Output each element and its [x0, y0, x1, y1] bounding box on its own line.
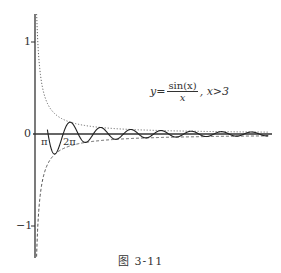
lower-envelope-curve: [37, 136, 269, 257]
y-tick-minus-1: −1: [16, 219, 32, 232]
x-tick-2pi: 2π: [63, 136, 76, 147]
formula-numerator: sin(x): [167, 80, 197, 92]
formula-condition: , x>3: [200, 85, 229, 98]
function-annotation: y= sin(x) x , x>3: [150, 80, 229, 103]
formula-denominator: x: [180, 92, 186, 103]
upper-envelope-curve: [37, 14, 269, 132]
y-tick-0: 0: [24, 127, 31, 140]
x-tick-pi: π: [41, 136, 48, 147]
y-tick-1: 1: [24, 35, 31, 48]
sinc-curve: [47, 122, 268, 154]
figure-caption: 图 3-11: [118, 252, 163, 268]
formula-lhs: y=: [150, 85, 165, 98]
formula-fraction: sin(x) x: [167, 80, 197, 103]
